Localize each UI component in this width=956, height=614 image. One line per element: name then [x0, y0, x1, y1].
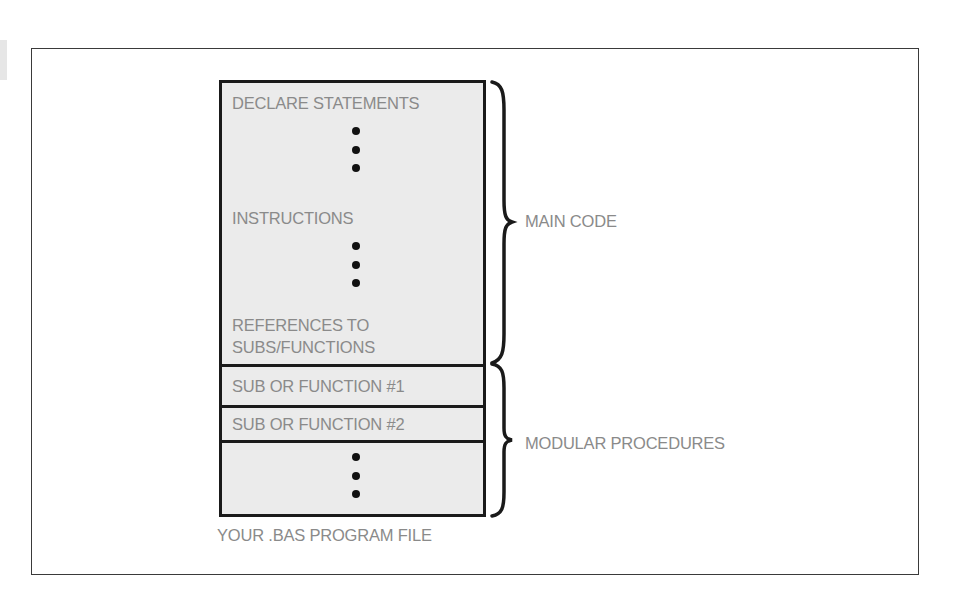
references-label-line1: REFERENCES TO — [232, 315, 369, 335]
modular-procedures-label: MODULAR PROCEDURES — [525, 434, 725, 453]
declare-statements-label: DECLARE STATEMENTS — [232, 93, 419, 113]
procedure-section-2: SUB OR FUNCTION #2 — [222, 405, 483, 440]
sub-function-1-label: SUB OR FUNCTION #1 — [232, 376, 404, 396]
sub-function-2-label: SUB OR FUNCTION #2 — [232, 414, 404, 434]
main-code-section: DECLARE STATEMENTS INSTRUCTIONS REFERENC… — [222, 83, 483, 364]
main-code-label: MAIN CODE — [525, 212, 617, 231]
file-box-caption: YOUR .BAS PROGRAM FILE — [217, 526, 432, 545]
vertical-ellipsis-icon — [352, 242, 360, 298]
procedure-section-1: SUB OR FUNCTION #1 — [222, 364, 483, 405]
bas-program-file-box: DECLARE STATEMENTS INSTRUCTIONS REFERENC… — [219, 80, 486, 517]
procedure-section-more — [222, 440, 483, 514]
main-code-brace-icon — [488, 80, 518, 365]
vertical-ellipsis-icon — [352, 453, 360, 509]
modular-procedures-brace-icon — [488, 362, 518, 518]
vertical-ellipsis-icon — [352, 127, 360, 183]
references-label-line2: SUBS/FUNCTIONS — [232, 337, 375, 357]
page-edge-mark — [0, 40, 7, 80]
instructions-label: INSTRUCTIONS — [232, 208, 353, 228]
